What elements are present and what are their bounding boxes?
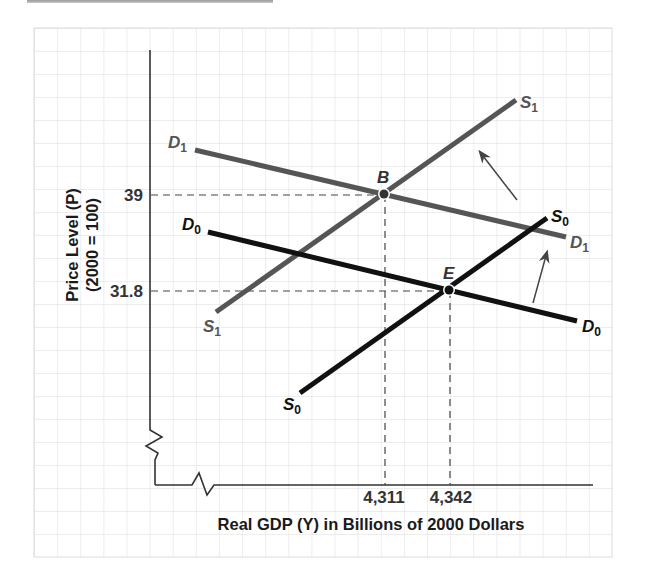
point-b (378, 188, 390, 200)
x-axis-title: Real GDP (Y) in Billions of 2000 Dollars (218, 515, 525, 533)
y-axis-title-line1: Price Level (P) (63, 188, 81, 302)
point-e (443, 284, 455, 296)
y-tick-31-8: 31.8 (110, 282, 143, 301)
y-tick-39: 39 (124, 186, 143, 205)
label-point-e: E (443, 264, 455, 283)
ad-as-chart: D1 D1 S1 S1 D0 D0 S0 S0 B E 39 31.8 4,31… (0, 0, 651, 585)
label-point-b: B (377, 168, 389, 187)
x-tick-4342: 4,342 (430, 488, 473, 507)
y-axis-title-line2: (2000 = 100) (83, 198, 101, 292)
x-tick-4311: 4,311 (363, 488, 405, 507)
